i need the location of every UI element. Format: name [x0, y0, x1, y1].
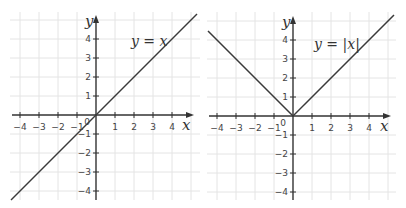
svg-text:2: 2: [131, 122, 137, 132]
svg-text:−2: −2: [51, 122, 64, 132]
svg-text:−4: −4: [275, 187, 289, 197]
svg-text:3: 3: [150, 122, 156, 132]
left-equation-label: y = x: [130, 33, 168, 49]
svg-text:3: 3: [85, 53, 91, 63]
right-origin-label: 0: [280, 118, 286, 128]
svg-text:1: 1: [85, 91, 91, 101]
svg-text:−4: −4: [210, 123, 224, 133]
svg-text:−1: −1: [275, 130, 288, 140]
right-grid: [207, 12, 396, 200]
svg-text:1: 1: [282, 92, 288, 102]
svg-text:−3: −3: [275, 168, 288, 178]
svg-text:−3: −3: [78, 167, 91, 177]
left-graph: −4 −3 −2 −1 1 2 3 4 4 3 2 1 −1 −2 −3 −4 …: [10, 12, 200, 200]
svg-text:4: 4: [282, 35, 288, 45]
left-x-axis-label: x: [182, 116, 191, 134]
svg-text:−2: −2: [78, 148, 91, 158]
right-graph: −4 −3 −2 −1 1 2 3 4 4 3 2 1 −1 −2 −3 −4 …: [207, 12, 396, 200]
right-y-arrow-icon: [290, 16, 296, 24]
svg-text:4: 4: [85, 34, 91, 44]
svg-text:2: 2: [328, 123, 334, 133]
svg-text:3: 3: [282, 54, 288, 64]
svg-text:−3: −3: [32, 122, 45, 132]
svg-text:2: 2: [282, 73, 288, 83]
svg-text:2: 2: [85, 72, 91, 82]
right-equation-label: y = |x|: [313, 36, 360, 53]
left-y-arrow-icon: [93, 15, 99, 23]
svg-text:4: 4: [366, 123, 372, 133]
svg-text:1: 1: [112, 122, 118, 132]
graphs-canvas: −4 −3 −2 −1 1 2 3 4 4 3 2 1 −1 −2 −3 −4 …: [0, 0, 406, 208]
right-y-axis-label: y: [281, 13, 291, 31]
right-x-tick-labels: −4 −3 −2 −1 1 2 3 4: [210, 123, 372, 133]
left-y-axis-label: y: [84, 12, 94, 30]
svg-text:−4: −4: [13, 122, 27, 132]
svg-text:1: 1: [309, 123, 315, 133]
svg-text:−2: −2: [275, 149, 288, 159]
left-x-tick-labels: −4 −3 −2 −1 1 2 3 4: [13, 122, 175, 132]
svg-text:4: 4: [169, 122, 175, 132]
svg-text:−2: −2: [248, 123, 261, 133]
svg-text:3: 3: [347, 123, 353, 133]
right-x-axis-label: x: [380, 117, 389, 135]
svg-text:−4: −4: [78, 186, 92, 196]
svg-text:−3: −3: [229, 123, 242, 133]
